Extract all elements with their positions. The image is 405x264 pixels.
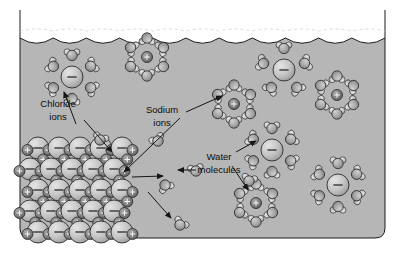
label-chloride-line1: Chloride <box>40 98 75 109</box>
sodium-ion <box>229 99 240 110</box>
diagram-canvas: Chloride ions Sodium ions Water molecule… <box>0 0 405 264</box>
oxygen-atom <box>267 166 277 176</box>
label-sodium-line1: Sodium <box>146 104 178 115</box>
sodium-ion <box>22 187 33 198</box>
shell-water-molecule <box>139 33 155 45</box>
oxygen-atom <box>333 158 343 168</box>
oxygen-atom <box>229 118 239 128</box>
chloride-ion <box>61 66 83 88</box>
sodium-ion <box>142 52 153 63</box>
sodium-ion <box>14 166 25 177</box>
oxygen-atom <box>142 71 152 81</box>
sodium-ion <box>22 229 33 240</box>
oxygen-atom <box>333 201 343 211</box>
oxygen-atom <box>229 80 239 90</box>
label-water-line2: molecules <box>198 164 241 175</box>
sodium-ion <box>22 145 33 156</box>
sodium-chloride-crystal-lattice <box>14 137 138 243</box>
oxygen-atom <box>332 71 342 81</box>
oxygen-atom <box>142 33 152 43</box>
sodium-ion <box>332 90 343 101</box>
dissolving-salt-diagram: Chloride ions Sodium ions Water molecule… <box>0 0 405 264</box>
chloride-ion <box>261 139 283 161</box>
sodium-ion <box>14 208 25 219</box>
oxygen-atom <box>267 123 277 133</box>
sodium-ion <box>251 198 262 209</box>
chloride-ion <box>273 59 295 81</box>
label-water-line1: Water <box>207 151 232 162</box>
label-sodium-line2: ions <box>153 117 171 128</box>
chloride-ion <box>327 174 349 196</box>
oxygen-atom <box>332 109 342 119</box>
oxygen-atom <box>67 50 77 60</box>
water-surface-hint-line <box>20 29 385 31</box>
oxygen-atom <box>279 43 289 53</box>
oxygen-atom <box>251 217 261 227</box>
label-chloride-line2: ions <box>49 111 67 122</box>
sodium-ion <box>127 229 138 240</box>
